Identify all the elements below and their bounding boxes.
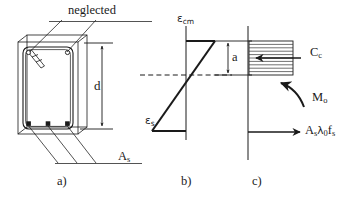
concrete-strain-sub: cm xyxy=(183,17,194,26)
engineering-figure-svg xyxy=(0,0,355,199)
steel-strain-sub: s xyxy=(151,119,155,128)
concrete-force-label: Cc xyxy=(310,46,322,59)
neglected-label: neglected xyxy=(68,4,116,17)
concrete-strain-label: εcm xyxy=(177,13,194,25)
perspective-edge-br xyxy=(78,127,87,134)
moment-sub: o xyxy=(323,95,327,105)
strain-diagonal xyxy=(152,41,215,131)
effective-depth-label: d xyxy=(94,79,101,92)
concrete-force-sub: c xyxy=(318,50,322,60)
panel-a-cross-section xyxy=(18,20,152,164)
steel-area-base: A xyxy=(118,149,127,163)
moment-base: M xyxy=(312,90,323,104)
top-bars-neglected xyxy=(26,50,69,54)
stirrup-inner xyxy=(26,50,71,127)
panel-c-stress-resultants xyxy=(215,26,304,160)
steel-force-area: A xyxy=(305,123,314,137)
steel-force-label: Asλ0fs xyxy=(305,124,335,137)
steel-force-stress-sub: s xyxy=(332,128,335,138)
moment-label: Mo xyxy=(312,91,327,104)
steel-area-sub: s xyxy=(127,154,130,164)
perspective-edge-tl xyxy=(18,35,27,42)
panel-label-c: c) xyxy=(252,175,262,188)
bottom-bars-tension xyxy=(26,121,69,126)
bottom-bar-2 xyxy=(46,121,51,126)
block-depth-label: a xyxy=(232,51,238,64)
steel-area-label: As xyxy=(118,150,130,163)
stirrup-outer xyxy=(23,47,73,129)
panel-label-a: a) xyxy=(57,175,67,188)
bottom-bar-1 xyxy=(26,121,31,126)
bottom-bar-3 xyxy=(65,121,70,126)
steel-strain-label: εs xyxy=(145,115,155,127)
panel-label-b: b) xyxy=(181,175,191,188)
figure-container: neglected d As εcm εs a Cc Mo Asλ0fs a) … xyxy=(0,0,355,199)
compression-stress-block xyxy=(249,41,301,75)
moment-curved-arrow xyxy=(281,83,304,107)
